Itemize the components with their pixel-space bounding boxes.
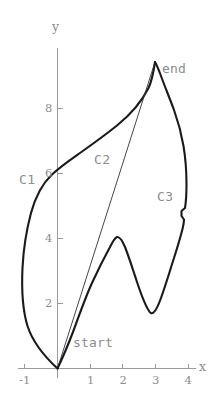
x-tick-label-4: 4 — [185, 375, 192, 387]
annotation-start-label: start — [73, 336, 113, 349]
curve-c2-path — [58, 62, 156, 369]
x-tick-label-1: 1 — [87, 375, 94, 387]
curve-label-c1: C1 — [19, 173, 35, 186]
curve-label-c2: C2 — [94, 153, 110, 166]
curve-c3-path — [58, 62, 187, 369]
curve-label-c3: C3 — [157, 190, 173, 203]
x-axis-label: x — [199, 361, 206, 374]
y-axis-label: y — [52, 21, 59, 34]
x-tick-label-3: 3 — [152, 375, 159, 387]
y-tick-label-8: 8 — [45, 103, 52, 115]
y-tick-label-6: 6 — [45, 168, 52, 180]
x-axis-ticks — [25, 364, 189, 369]
plot-canvas: -1 1 2 3 4 2 4 6 8 x y start end C1 C2 C… — [0, 0, 219, 403]
curve-c1-path — [22, 62, 155, 369]
y-tick-label-4: 4 — [45, 233, 52, 245]
x-tick-label-2: 2 — [120, 375, 127, 387]
y-tick-label-2: 2 — [45, 298, 52, 310]
y-axis-ticks — [58, 109, 63, 304]
annotation-end-label: end — [162, 62, 186, 75]
x-tick-label-neg1: -1 — [19, 375, 30, 387]
